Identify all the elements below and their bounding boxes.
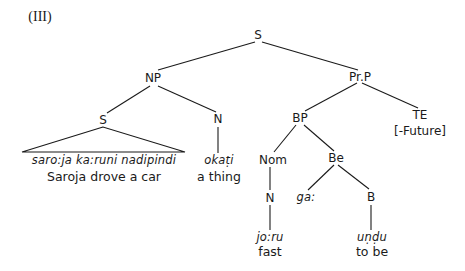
node-bp: BP	[292, 112, 307, 124]
node-te: TE	[413, 109, 428, 121]
leaf-undu-gloss: to be	[356, 246, 388, 259]
leaf-joru-form: jo:ru	[256, 232, 283, 244]
branch-prp-bp	[305, 83, 357, 111]
node-te-feature: [-Future]	[394, 125, 446, 137]
node-b: B	[367, 191, 375, 203]
leaf-clause-gloss: Saroja drove a car	[47, 171, 161, 184]
leaf-undu-form: uṇḍu	[357, 232, 387, 244]
node-be: Be	[328, 152, 344, 164]
node-np: NP	[145, 72, 161, 84]
figure-label: (III)	[28, 10, 51, 24]
leaf-okati-gloss: a thing	[197, 171, 241, 184]
branch-be-b	[338, 165, 369, 189]
leaf-joru-gloss: fast	[258, 246, 281, 259]
node-n-nom: N	[266, 192, 275, 204]
triangle-s	[22, 127, 185, 152]
node-prp: Pr.P	[349, 71, 371, 83]
leaf-clause-form: saro:ja ka:runi nadipindi	[32, 155, 176, 167]
node-nom: Nom	[259, 154, 287, 166]
branch-np-s	[107, 86, 150, 113]
branch-s-np	[158, 42, 255, 70]
node-sub-s: S	[99, 114, 107, 126]
branch-bp-nom	[274, 125, 296, 152]
branch-be-ga	[308, 165, 334, 190]
node-n-np: N	[214, 113, 223, 125]
branch-prp-te	[362, 83, 418, 108]
node-root-s: S	[254, 29, 262, 41]
branch-bp-be	[304, 125, 334, 151]
leaf-ga-form: ga:	[297, 192, 316, 204]
branch-s-prp	[262, 42, 358, 70]
branch-np-n	[158, 86, 216, 112]
leaf-okati-form: okaṭi	[204, 155, 233, 167]
